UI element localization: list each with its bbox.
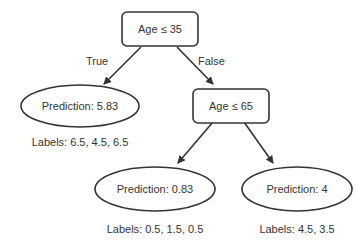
- right-leaf-labels: Labels: 4.5, 3.5: [259, 223, 334, 235]
- edge-label-false: False: [198, 55, 225, 67]
- node-left-leaf: Prediction: 5.83 Labels: 6.5, 4.5, 6.5: [21, 85, 139, 148]
- edge-root-false: False: [177, 47, 225, 84]
- edge-label-true: True: [86, 55, 108, 67]
- left-leaf-labels: Labels: 6.5, 4.5, 6.5: [32, 136, 129, 148]
- right-leaf-prediction: Prediction: 4: [266, 183, 327, 195]
- left-leaf-prediction: Prediction: 5.83: [42, 100, 118, 112]
- node-mid-leaf: Prediction: 0.83 Labels: 0.5, 1.5, 0.5: [95, 167, 215, 235]
- decision-tree-diagram: True False Age ≤ 35 Prediction: 5.83 Lab…: [0, 0, 359, 246]
- node-right-leaf: Prediction: 4 Labels: 4.5, 3.5: [242, 167, 352, 235]
- node-root: Age ≤ 35: [122, 12, 198, 46]
- node-split2-label: Age ≤ 65: [209, 100, 253, 112]
- mid-leaf-prediction: Prediction: 0.83: [117, 183, 193, 195]
- node-split2: Age ≤ 65: [193, 89, 269, 123]
- node-root-label: Age ≤ 35: [138, 23, 182, 35]
- edge-split2-left: [178, 122, 213, 163]
- edge-split2-right: [244, 122, 273, 163]
- edge-root-true: True: [86, 47, 141, 84]
- mid-leaf-labels: Labels: 0.5, 1.5, 0.5: [107, 223, 204, 235]
